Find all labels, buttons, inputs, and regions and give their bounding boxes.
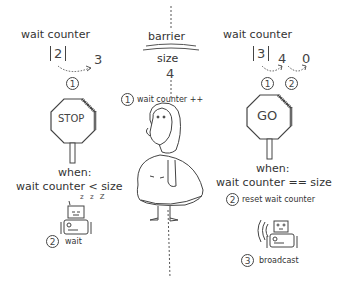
right-step-3: 3 broadcast	[241, 254, 299, 267]
right-current-value: 3	[253, 46, 269, 61]
step-label: wait counter ++	[137, 95, 203, 104]
waiting-person-icon	[137, 103, 203, 221]
step-label: reset wait counter	[242, 195, 315, 204]
right-step-marker-1: 1	[261, 77, 274, 90]
right-step-marker-2: 2	[285, 77, 298, 90]
stop-sign-text: STOP	[58, 113, 84, 124]
left-condition-when: when:	[58, 166, 91, 179]
left-next-value: 3	[94, 52, 102, 67]
step-number-marker: 3	[241, 254, 254, 267]
step-number-marker: 2	[226, 193, 239, 206]
broadcast-robot-icon	[258, 220, 297, 248]
barrier-title: barrier	[148, 30, 185, 43]
barrier-size-label: size	[157, 52, 178, 65]
left-wait-counter-title: wait counter	[21, 28, 90, 41]
left-condition: wait counter < size	[16, 180, 122, 193]
right-condition-when: when:	[256, 162, 289, 175]
right-reset-value: 0	[302, 51, 310, 66]
sleep-z-icon: z z Z	[80, 193, 107, 201]
left-step-marker: 1	[66, 77, 79, 90]
sleeping-robot-icon	[61, 201, 91, 234]
step-number-marker: 2	[46, 235, 59, 248]
go-sign-icon	[247, 95, 291, 159]
right-next-value: 4	[278, 51, 286, 66]
barrier-size-value: 4	[166, 66, 174, 81]
right-wait-counter-title: wait counter	[223, 28, 292, 41]
go-sign-text: GO	[257, 108, 277, 123]
left-current-value: 2	[50, 46, 66, 61]
step-number-marker: 1	[121, 93, 134, 106]
step-label: broadcast	[259, 256, 299, 265]
left-step-2: 2 wait	[46, 235, 82, 248]
center-step-1: 1 wait counter ++	[121, 93, 203, 106]
stop-sign-icon	[51, 99, 95, 163]
step-label: wait	[65, 237, 82, 246]
right-condition: wait counter == size	[216, 176, 332, 189]
right-step-2: 2 reset wait counter	[226, 193, 315, 206]
